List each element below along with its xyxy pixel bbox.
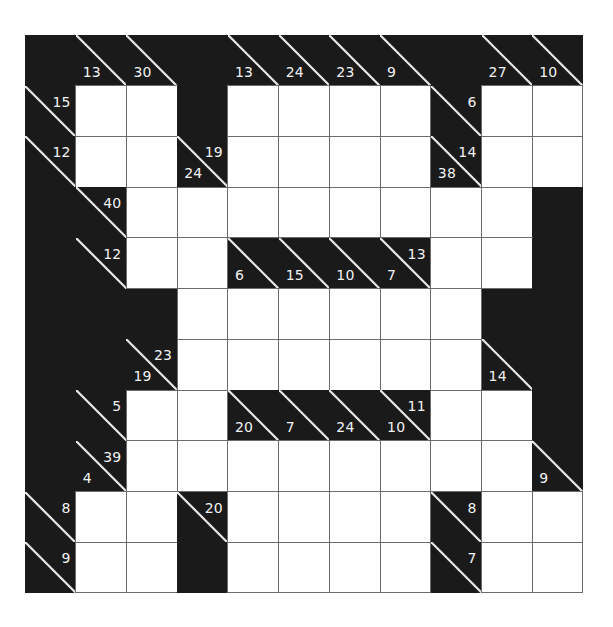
entry-cell[interactable] bbox=[278, 187, 330, 239]
clue-cell: 7 bbox=[431, 542, 482, 593]
clue-cell: 3814 bbox=[431, 136, 482, 187]
down-clue-sum: 7 bbox=[387, 268, 396, 282]
entry-cell[interactable] bbox=[75, 542, 127, 594]
down-clue-sum: 9 bbox=[539, 471, 548, 485]
entry-cell[interactable] bbox=[329, 491, 381, 543]
entry-cell[interactable] bbox=[177, 187, 229, 239]
entry-cell[interactable] bbox=[278, 339, 330, 391]
entry-cell[interactable] bbox=[481, 440, 533, 492]
blocked-cell bbox=[25, 35, 76, 86]
entry-cell[interactable] bbox=[278, 440, 330, 492]
entry-cell[interactable] bbox=[177, 339, 229, 391]
down-clue-sum: 10 bbox=[539, 65, 557, 79]
entry-cell[interactable] bbox=[75, 136, 127, 188]
entry-cell[interactable] bbox=[481, 237, 533, 289]
entry-cell[interactable] bbox=[481, 542, 533, 594]
entry-cell[interactable] bbox=[227, 440, 279, 492]
clue-cell: 20 bbox=[228, 390, 279, 441]
clue-cell: 12 bbox=[76, 238, 127, 289]
entry-cell[interactable] bbox=[532, 85, 584, 137]
entry-cell[interactable] bbox=[481, 85, 533, 137]
entry-cell[interactable] bbox=[380, 136, 432, 188]
entry-cell[interactable] bbox=[126, 440, 178, 492]
entry-cell[interactable] bbox=[481, 390, 533, 442]
blocked-cell bbox=[532, 238, 583, 289]
down-clue-sum: 14 bbox=[489, 369, 507, 383]
entry-cell[interactable] bbox=[380, 85, 432, 137]
clue-cell: 6 bbox=[431, 86, 482, 137]
entry-cell[interactable] bbox=[278, 491, 330, 543]
clue-cell: 24 bbox=[279, 35, 330, 86]
entry-cell[interactable] bbox=[177, 390, 229, 442]
entry-cell[interactable] bbox=[126, 136, 178, 188]
entry-cell[interactable] bbox=[227, 187, 279, 239]
down-clue-sum: 24 bbox=[286, 65, 304, 79]
entry-cell[interactable] bbox=[329, 542, 381, 594]
entry-cell[interactable] bbox=[329, 187, 381, 239]
entry-cell[interactable] bbox=[430, 339, 482, 391]
clue-cell: 40 bbox=[76, 187, 127, 238]
clue-cell: 10 bbox=[329, 238, 380, 289]
entry-cell[interactable] bbox=[430, 390, 482, 442]
entry-cell[interactable] bbox=[430, 440, 482, 492]
entry-cell[interactable] bbox=[380, 491, 432, 543]
entry-cell[interactable] bbox=[278, 542, 330, 594]
across-clue-sum: 9 bbox=[62, 551, 71, 565]
entry-cell[interactable] bbox=[481, 491, 533, 543]
down-clue-sum: 38 bbox=[438, 166, 456, 180]
entry-cell[interactable] bbox=[126, 237, 178, 289]
clue-cell: 6 bbox=[228, 238, 279, 289]
entry-cell[interactable] bbox=[532, 491, 584, 543]
entry-cell[interactable] bbox=[329, 136, 381, 188]
blocked-cell bbox=[177, 35, 228, 86]
entry-cell[interactable] bbox=[177, 288, 229, 340]
entry-cell[interactable] bbox=[430, 187, 482, 239]
entry-cell[interactable] bbox=[380, 288, 432, 340]
down-clue-sum: 6 bbox=[235, 268, 244, 282]
entry-cell[interactable] bbox=[329, 440, 381, 492]
across-clue-sum: 39 bbox=[103, 450, 121, 464]
blocked-cell bbox=[532, 289, 583, 340]
blocked-cell bbox=[126, 289, 177, 340]
entry-cell[interactable] bbox=[329, 288, 381, 340]
entry-cell[interactable] bbox=[278, 136, 330, 188]
clue-cell: 1011 bbox=[380, 390, 431, 441]
entry-cell[interactable] bbox=[430, 288, 482, 340]
entry-cell[interactable] bbox=[380, 339, 432, 391]
down-clue-sum: 20 bbox=[235, 420, 253, 434]
blocked-cell bbox=[25, 339, 76, 390]
entry-cell[interactable] bbox=[380, 542, 432, 594]
entry-cell[interactable] bbox=[126, 85, 178, 137]
entry-cell[interactable] bbox=[126, 491, 178, 543]
entry-cell[interactable] bbox=[532, 542, 584, 594]
entry-cell[interactable] bbox=[126, 390, 178, 442]
entry-cell[interactable] bbox=[227, 491, 279, 543]
entry-cell[interactable] bbox=[227, 288, 279, 340]
entry-cell[interactable] bbox=[126, 187, 178, 239]
entry-cell[interactable] bbox=[329, 85, 381, 137]
entry-cell[interactable] bbox=[126, 542, 178, 594]
blocked-cell bbox=[177, 86, 228, 137]
entry-cell[interactable] bbox=[430, 237, 482, 289]
entry-cell[interactable] bbox=[227, 136, 279, 188]
entry-cell[interactable] bbox=[177, 237, 229, 289]
entry-cell[interactable] bbox=[481, 136, 533, 188]
entry-cell[interactable] bbox=[380, 440, 432, 492]
down-clue-sum: 13 bbox=[235, 65, 253, 79]
entry-cell[interactable] bbox=[481, 187, 533, 239]
entry-cell[interactable] bbox=[227, 339, 279, 391]
entry-cell[interactable] bbox=[177, 440, 229, 492]
entry-cell[interactable] bbox=[75, 491, 127, 543]
blocked-cell bbox=[25, 238, 76, 289]
down-clue-sum: 15 bbox=[286, 268, 304, 282]
entry-cell[interactable] bbox=[227, 85, 279, 137]
across-clue-sum: 11 bbox=[408, 399, 426, 413]
entry-cell[interactable] bbox=[380, 187, 432, 239]
entry-cell[interactable] bbox=[532, 136, 584, 188]
entry-cell[interactable] bbox=[329, 339, 381, 391]
entry-cell[interactable] bbox=[75, 85, 127, 137]
entry-cell[interactable] bbox=[278, 85, 330, 137]
entry-cell[interactable] bbox=[227, 542, 279, 594]
down-clue-sum: 19 bbox=[133, 369, 151, 383]
entry-cell[interactable] bbox=[278, 288, 330, 340]
